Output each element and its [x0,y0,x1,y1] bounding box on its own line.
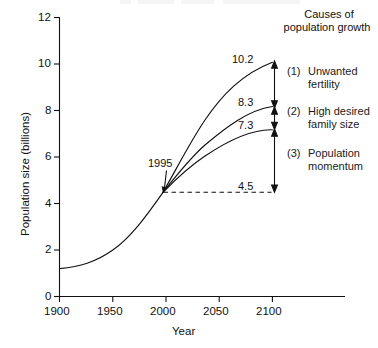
bracket-arrows [272,61,278,192]
value-label-7-3: 7.3 [238,119,253,131]
y-tick-label-10: 10 [38,57,51,70]
y-axis-title: Population size (billions) [19,112,32,236]
y-tick-label-2: 2 [45,243,51,256]
x-tick-label-2050: 2050 [203,305,229,318]
legend-item-1-line-2: fertility [308,78,340,90]
x-axis-title: Year [172,325,195,338]
x-tick-label-2100: 2100 [256,305,282,318]
y-tick-label-6: 6 [45,150,51,163]
x-tick-label-1950: 1950 [97,305,123,318]
legend-item-2-number: (2) [287,105,300,117]
chart-canvas [0,0,378,348]
x-axis-ticks [60,297,273,303]
legend-item-1-line-1: Unwanted [308,65,358,77]
legend-title-line-2: population growth [277,21,377,33]
value-label-4-5: 4.5 [238,180,253,192]
legend-item-2-line-2: family size [308,118,359,130]
x-tick-label-2000: 2000 [150,305,176,318]
curve-population-momentum [163,130,272,193]
legend-item-3-line-2: momentum [308,160,363,172]
legend-item-3-number: (3) [287,147,300,159]
historical-curve [60,192,164,268]
curve-high-desired-family-size [163,107,272,193]
population-growth-chart: 12 10 8 6 4 2 0 1900 1950 2000 2050 2100… [0,0,378,348]
y-tick-label-8: 8 [45,104,51,117]
y-tick-label-0: 0 [45,290,51,303]
y-axis-ticks [54,18,60,297]
legend-item-1-number: (1) [287,65,300,77]
y-tick-label-4: 4 [45,197,51,210]
annotation-1995: 1995 [148,157,172,169]
x-tick-label-1900: 1900 [44,305,70,318]
legend-item-3-line-1: Population [308,147,360,159]
axis-lines [60,17,346,297]
y-tick-label-12: 12 [38,11,51,24]
value-label-10-2: 10.2 [232,53,253,65]
value-label-8-3: 8.3 [238,96,253,108]
legend-title-line-1: Causes of [283,8,375,20]
legend-item-2-line-1: High desired [308,105,370,117]
